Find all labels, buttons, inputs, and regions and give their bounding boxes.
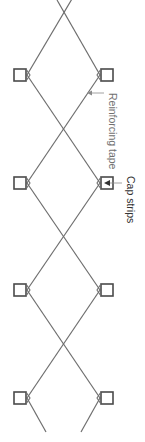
cap-strips-callout: Cap strips [110, 176, 137, 223]
lattice-diagram: Reinforcing tape Cap strips [0, 0, 145, 442]
lattice-line [57, 0, 100, 75]
lattice-line [81, 398, 100, 432]
reinforcing-tape-label: Reinforcing tape [107, 93, 119, 170]
cap-strips-label: Cap strips [125, 176, 137, 223]
lattice-line [27, 0, 82, 75]
reinforcing-tape-callout: Reinforcing tape [87, 91, 119, 170]
lattice-lines [27, 0, 100, 432]
lattice-line [27, 398, 46, 432]
